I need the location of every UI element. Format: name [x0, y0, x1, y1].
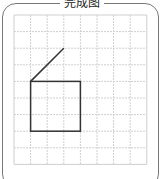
grid-drawing	[0, 0, 163, 179]
square-shape	[31, 81, 81, 131]
